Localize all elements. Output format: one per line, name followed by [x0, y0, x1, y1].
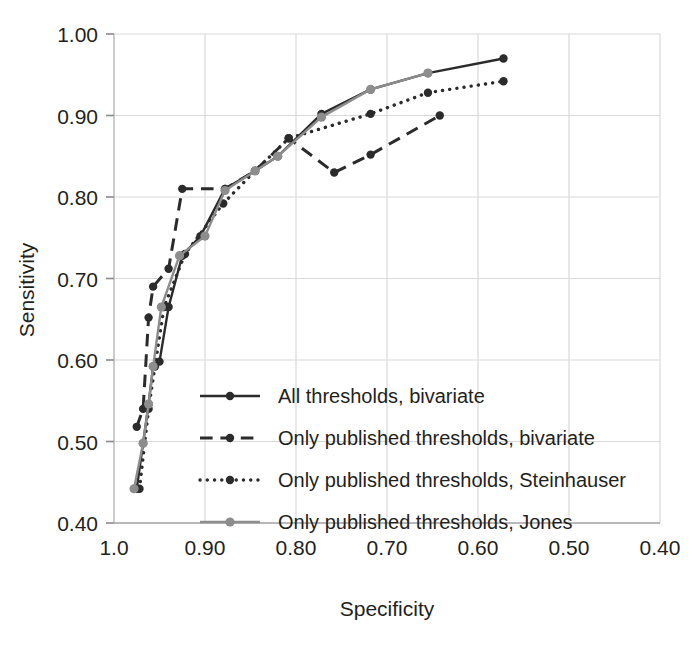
- y-axis-tick-label: 0.90: [57, 105, 98, 128]
- data-point: [157, 302, 166, 311]
- roc-chart: 1.00.900.800.700.600.500.40 0.400.500.60…: [0, 0, 698, 646]
- x-axis-tick-label: 0.50: [549, 536, 590, 559]
- data-point: [139, 439, 148, 448]
- x-axis-tick-label: 0.60: [458, 536, 499, 559]
- x-axis-tick-label: 0.70: [367, 536, 408, 559]
- data-point: [164, 265, 172, 273]
- data-point: [220, 186, 229, 195]
- data-point: [200, 232, 209, 241]
- legend-marker: [226, 392, 234, 400]
- data-point: [129, 484, 138, 493]
- legend-marker: [225, 517, 234, 526]
- data-point: [285, 134, 293, 142]
- x-axis-tick-label: 0.90: [185, 536, 226, 559]
- data-point: [366, 150, 374, 158]
- data-point: [436, 111, 444, 119]
- x-axis-tick-label: 0.80: [276, 536, 317, 559]
- y-axis-tick-label: 0.70: [57, 268, 98, 291]
- legend-label: Only published thresholds, Jones: [278, 511, 573, 533]
- data-point: [366, 110, 374, 118]
- x-axis-tick-label: 0.40: [640, 536, 681, 559]
- data-point: [144, 313, 152, 321]
- data-point: [366, 85, 375, 94]
- legend-marker: [226, 476, 234, 484]
- legend-marker: [226, 434, 234, 442]
- data-point: [178, 185, 186, 193]
- data-point: [133, 423, 141, 431]
- data-point: [317, 113, 326, 122]
- data-point: [330, 168, 338, 176]
- legend-label: Only published thresholds, Steinhauser: [278, 469, 626, 491]
- y-axis-title: Sensitivity: [15, 242, 38, 337]
- x-axis-tick-label: 1.0: [99, 536, 128, 559]
- data-point: [250, 166, 259, 175]
- chart-canvas: 1.00.900.800.700.600.500.40 0.400.500.60…: [0, 0, 698, 646]
- data-point: [499, 77, 507, 85]
- legend-label: All thresholds, bivariate: [278, 385, 485, 407]
- data-point: [424, 88, 432, 96]
- data-point: [144, 399, 153, 408]
- y-axis-tick-label: 0.40: [57, 512, 98, 535]
- data-point: [499, 54, 507, 62]
- x-axis-title: Specificity: [340, 597, 435, 620]
- data-point: [149, 362, 158, 371]
- data-point: [175, 251, 184, 260]
- y-axis-tick-label: 0.60: [57, 349, 98, 372]
- data-point: [273, 152, 282, 161]
- y-axis-tick-label: 1.00: [57, 23, 98, 46]
- y-axis-tick-label: 0.80: [57, 186, 98, 209]
- legend-label: Only published thresholds, bivariate: [278, 427, 595, 449]
- data-point: [149, 282, 157, 290]
- y-axis-tick-label: 0.50: [57, 431, 98, 454]
- data-point: [423, 69, 432, 78]
